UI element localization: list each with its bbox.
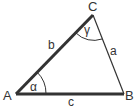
side-label-c: c bbox=[68, 95, 74, 109]
vertex-label-c: C bbox=[88, 0, 97, 14]
side-b bbox=[16, 15, 93, 94]
side-a bbox=[93, 15, 124, 94]
side-label-b: b bbox=[48, 38, 55, 52]
side-label-a: a bbox=[110, 44, 117, 58]
triangle-diagram: A B C a b c α γ bbox=[0, 0, 138, 109]
vertex-label-b: B bbox=[125, 88, 134, 103]
angle-label-gamma: γ bbox=[84, 23, 90, 37]
angle-arc-alpha bbox=[37, 72, 46, 94]
angle-label-alpha: α bbox=[30, 80, 37, 94]
vertex-label-a: A bbox=[3, 88, 12, 103]
